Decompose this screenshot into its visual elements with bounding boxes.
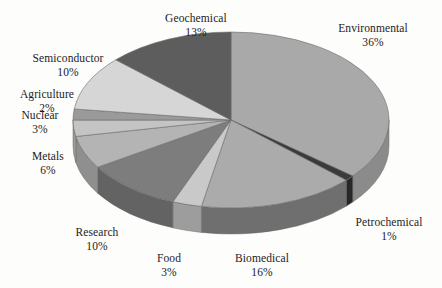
pie-label-semiconductor: Semiconductor10%: [8, 52, 128, 79]
pie-label-agriculture: Agriculture2%: [0, 88, 107, 115]
pie-chart-figure: Environmental36%Petrochemical1%Biomedica…: [0, 0, 442, 288]
pie-label-environmental: Environmental36%: [313, 22, 433, 49]
pie-label-value: 6%: [0, 164, 108, 178]
pie-label-research: Research10%: [37, 226, 157, 253]
pie-label-value: 2%: [0, 102, 107, 116]
pie-label-name: Petrochemical: [329, 216, 442, 230]
pie-label-value: 36%: [313, 36, 433, 50]
pie-label-food: Food3%: [109, 252, 229, 279]
pie-label-value: 10%: [8, 66, 128, 80]
pie-label-name: Geochemical: [136, 12, 256, 26]
pie-label-name: Semiconductor: [8, 52, 128, 66]
pie-label-value: 3%: [0, 123, 100, 137]
pie-label-geochemical: Geochemical13%: [136, 12, 256, 39]
pie-label-value: 3%: [109, 266, 229, 280]
pie-label-name: Agriculture: [0, 88, 107, 102]
pie-label-name: Metals: [0, 150, 108, 164]
pie-label-name: Food: [109, 252, 229, 266]
pie-label-name: Environmental: [313, 22, 433, 36]
pie-label-value: 13%: [136, 26, 256, 40]
pie-label-name: Research: [37, 226, 157, 240]
pie-label-value: 1%: [329, 230, 442, 244]
pie-label-petrochemical: Petrochemical1%: [329, 216, 442, 243]
pie-label-metals: Metals6%: [0, 150, 108, 177]
pie-label-value: 10%: [37, 240, 157, 254]
